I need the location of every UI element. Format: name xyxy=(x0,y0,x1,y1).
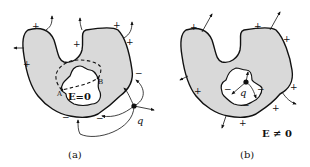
plus-b-5: + xyxy=(290,82,298,92)
plus-b-4: + xyxy=(194,86,202,96)
plus-b-3: + xyxy=(283,34,291,44)
plus-b-2: + xyxy=(254,21,262,31)
panel-b: q − − − + + + + + + + E ≠ 0 (b) xyxy=(180,12,298,160)
field-label-b: E ≠ 0 xyxy=(262,128,292,139)
figure-canvas: A B E=0 + + + + + − − − q (a) q − xyxy=(0,0,310,167)
charge-label-b: q xyxy=(240,87,246,98)
plus-a-5: + xyxy=(23,59,31,69)
charge-label-a: q xyxy=(137,115,143,126)
plus-a-3: + xyxy=(73,39,81,49)
point-a-label: A xyxy=(56,90,63,98)
plus-a-1: + xyxy=(32,21,40,31)
plus-b-6: + xyxy=(272,103,280,113)
field-label-a: E=0 xyxy=(68,91,91,102)
minus-a-3: − xyxy=(96,113,104,123)
point-b-label: B xyxy=(98,78,103,86)
caption-a: (a) xyxy=(68,149,82,160)
caption-b: (b) xyxy=(240,149,254,160)
minus-a-2: − xyxy=(62,112,70,122)
minus-a-1: − xyxy=(135,68,143,78)
panel-a: A B E=0 + + + + + − − − q (a) xyxy=(14,16,154,160)
minus-b-2: − xyxy=(257,84,265,94)
plus-b-1: + xyxy=(190,22,198,32)
plus-a-2: + xyxy=(113,20,121,30)
minus-b-1: − xyxy=(224,84,232,94)
plus-b-7: + xyxy=(239,118,247,128)
plus-a-4: + xyxy=(126,37,134,47)
minus-b-3: − xyxy=(242,100,250,110)
